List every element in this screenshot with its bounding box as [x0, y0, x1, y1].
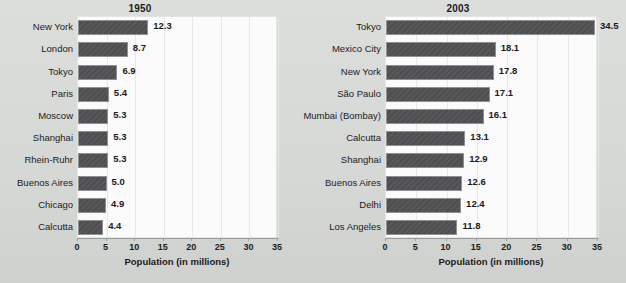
- chart-panel-2003: 2003 Tokyo34.5Mexico City18.1New York17.…: [313, 0, 626, 283]
- x-tick-label: 0: [375, 242, 395, 252]
- x-tick-label: 25: [210, 242, 230, 252]
- category-label: Tokyo: [3, 66, 73, 77]
- bar-row: Tokyo6.9: [78, 62, 276, 84]
- bar: [78, 176, 107, 191]
- x-tick: [106, 238, 107, 241]
- x-tick: [536, 238, 537, 241]
- x-axis-title-1950: Population (in millions): [77, 256, 277, 267]
- x-tick: [597, 238, 598, 241]
- bar-value-label: 17.8: [499, 65, 518, 76]
- category-label: Shanghai: [281, 154, 381, 165]
- x-tick-label: 30: [238, 242, 258, 252]
- category-label: São Paulo: [281, 88, 381, 99]
- bar-row: Moscow5.3: [78, 106, 276, 128]
- bar-row: São Paulo17.1: [386, 84, 596, 106]
- x-tick: [415, 238, 416, 241]
- x-tick-label: 15: [153, 242, 173, 252]
- bar: [78, 20, 148, 35]
- bar: [78, 198, 106, 213]
- x-tick: [385, 238, 386, 241]
- x-tick: [248, 238, 249, 241]
- x-tick-label: 20: [181, 242, 201, 252]
- bar: [386, 65, 494, 80]
- bar-row: Shanghai5.3: [78, 128, 276, 150]
- x-tick: [567, 238, 568, 241]
- x-tick-label: 25: [526, 242, 546, 252]
- category-label: Los Angeles: [281, 221, 381, 232]
- category-label: Calcutta: [3, 221, 73, 232]
- category-label: Rhein-Ruhr: [3, 154, 73, 165]
- bar: [386, 109, 484, 124]
- x-tick: [191, 238, 192, 241]
- bar-row: Paris5.4: [78, 84, 276, 106]
- x-tick-label: 5: [96, 242, 116, 252]
- bar-value-label: 16.1: [489, 109, 508, 120]
- bar-row: Tokyo34.5: [386, 17, 596, 39]
- x-tick-label: 5: [405, 242, 425, 252]
- bar-value-label: 12.3: [153, 20, 172, 31]
- bar: [386, 176, 462, 191]
- bar: [78, 153, 108, 168]
- bar-value-label: 5.3: [113, 109, 126, 120]
- x-tick-label: 20: [496, 242, 516, 252]
- bar-value-label: 12.9: [469, 153, 488, 164]
- bar: [78, 109, 108, 124]
- bar-value-label: 13.1: [470, 131, 489, 142]
- bar-row: New York17.8: [386, 62, 596, 84]
- bar-row: Calcutta13.1: [386, 128, 596, 150]
- bar-row: Buenos Aires12.6: [386, 173, 596, 195]
- bar: [78, 131, 108, 146]
- x-axis-line-1950: [77, 238, 277, 239]
- bar: [386, 42, 496, 57]
- plot-area-2003: Tokyo34.5Mexico City18.1New York17.8São …: [385, 16, 597, 238]
- bar-rows-2003: Tokyo34.5Mexico City18.1New York17.8São …: [386, 17, 596, 237]
- category-label: Shanghai: [3, 132, 73, 143]
- bar-rows-1950: New York12.3London8.7Tokyo6.9Paris5.4Mos…: [78, 17, 276, 237]
- category-label: Buenos Aires: [281, 177, 381, 188]
- gridline-35: [278, 17, 279, 237]
- bar-value-label: 11.8: [462, 220, 480, 231]
- x-tick-label: 10: [436, 242, 456, 252]
- bar-value-label: 4.4: [108, 220, 121, 231]
- bar: [386, 220, 457, 235]
- x-tick-label: 35: [267, 242, 287, 252]
- x-tick: [77, 238, 78, 241]
- bar-value-label: 12.6: [467, 176, 486, 187]
- x-axis-title-2003: Population (in millions): [385, 256, 597, 267]
- category-label: Calcutta: [281, 132, 381, 143]
- bar-row: New York12.3: [78, 17, 276, 39]
- chart-title-1950: 1950: [0, 3, 280, 14]
- x-tick-label: 30: [557, 242, 577, 252]
- bar-row: Mumbai (Bombay)16.1: [386, 106, 596, 128]
- bar-value-label: 8.7: [133, 42, 146, 53]
- x-tick: [220, 238, 221, 241]
- x-tick-label: 0: [67, 242, 87, 252]
- x-tick-label: 35: [587, 242, 607, 252]
- bar-row: Calcutta4.4: [78, 217, 276, 239]
- gridline-35: [598, 17, 599, 237]
- bar-value-label: 5.0: [112, 176, 125, 187]
- category-label: Mumbai (Bombay): [281, 110, 381, 121]
- bar-value-label: 18.1: [501, 42, 520, 53]
- x-tick-label: 10: [124, 242, 144, 252]
- x-axis-line-2003: [385, 238, 597, 239]
- bar: [78, 87, 109, 102]
- chart-title-2003: 2003: [313, 3, 603, 14]
- x-tick: [277, 238, 278, 241]
- bar-value-label: 12.4: [466, 198, 485, 209]
- bar: [78, 65, 117, 80]
- bar: [78, 220, 103, 235]
- bar-value-label: 6.9: [122, 65, 135, 76]
- bar: [386, 198, 461, 213]
- x-tick-label: 15: [466, 242, 486, 252]
- category-label: New York: [281, 66, 381, 77]
- bar: [386, 20, 595, 35]
- bar-value-label: 4.9: [111, 198, 124, 209]
- bar: [386, 87, 490, 102]
- category-label: Delhi: [281, 199, 381, 210]
- bar-value-label: 34.5: [600, 20, 619, 31]
- category-label: Moscow: [3, 110, 73, 121]
- bar-value-label: 5.3: [113, 131, 126, 142]
- bar-value-label: 5.4: [114, 87, 127, 98]
- bar-row: Buenos Aires5.0: [78, 173, 276, 195]
